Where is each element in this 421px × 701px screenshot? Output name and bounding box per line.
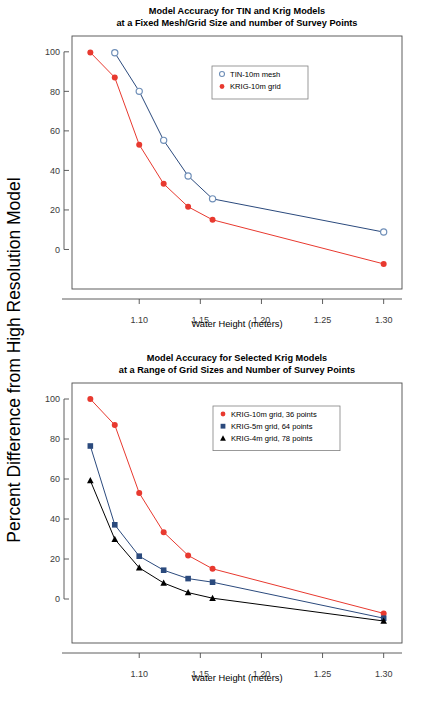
data-point-top-1-2	[136, 142, 142, 148]
y-tick-label-top-3: 60	[50, 126, 60, 136]
y-tick-label-bottom-5: 100	[45, 394, 60, 404]
y-axis-label-shared: Percent Difference from High Resolution …	[4, 177, 24, 542]
x-tick-label-top-3: 1.25	[314, 315, 332, 325]
data-point-bottom-1-2	[136, 553, 142, 559]
data-point-top-0-5	[381, 229, 387, 235]
legend-label-bottom-0: KRIG-10m grid, 36 points	[231, 410, 317, 419]
data-point-top-1-4	[185, 204, 191, 210]
legend-marker-bottom-1	[221, 424, 226, 429]
panel-top: Model Accuracy for TIN and Krig Modelsat…	[45, 6, 402, 329]
series-bottom-2	[87, 477, 387, 624]
data-point-top-0-2	[161, 137, 167, 143]
x-tick-label-top-4: 1.30	[375, 315, 393, 325]
y-tick-label-bottom-1: 20	[50, 554, 60, 564]
data-point-bottom-1-0	[88, 443, 94, 449]
data-point-bottom-2-0	[87, 477, 94, 483]
data-point-top-0-4	[209, 196, 215, 202]
x-tick-label-bottom-4: 1.30	[375, 669, 393, 679]
x-axis-label-bottom: Water Height (meters)	[191, 673, 282, 683]
series-line-bottom-1	[90, 446, 383, 618]
legend-label-bottom-1: KRIG-5m grid, 64 points	[231, 422, 313, 431]
data-point-bottom-0-3	[161, 529, 167, 535]
data-point-bottom-0-0	[87, 396, 93, 402]
y-axis-top: 020406080100	[45, 47, 69, 255]
data-point-top-0-1	[136, 88, 142, 94]
data-point-bottom-2-3	[160, 580, 167, 586]
data-point-bottom-1-4	[185, 576, 191, 582]
legend-top: TIN-10m meshKRIG-10m grid	[212, 66, 308, 99]
series-line-bottom-2	[90, 481, 383, 621]
chart-subtitle-bottom: at a Range of Grid Sizes and Number of S…	[119, 365, 355, 375]
data-point-bottom-2-1	[111, 536, 118, 542]
legend-label-top-1: KRIG-10m grid	[230, 82, 281, 91]
y-tick-label-bottom-0: 0	[55, 594, 60, 604]
data-point-top-0-0	[112, 50, 118, 56]
y-tick-label-bottom-3: 60	[50, 474, 60, 484]
data-point-bottom-1-1	[112, 522, 118, 528]
x-tick-label-bottom-0: 1.10	[130, 669, 148, 679]
data-point-bottom-1-3	[161, 567, 167, 573]
chart-title-bottom: Model Accuracy for Selected Krig Models	[147, 353, 327, 363]
data-point-top-1-6	[381, 261, 387, 267]
data-point-bottom-0-2	[136, 490, 142, 496]
panel-bottom: Model Accuracy for Selected Krig Modelsa…	[45, 353, 402, 683]
data-point-top-0-3	[185, 173, 191, 179]
x-axis-label-top: Water Height (meters)	[191, 319, 282, 329]
series-bottom-1	[88, 443, 387, 621]
data-point-bottom-1-5	[210, 579, 216, 585]
y-tick-label-top-1: 20	[50, 205, 60, 215]
legend-marker-top-1	[220, 84, 225, 89]
legend-label-top-0: TIN-10m mesh	[230, 70, 280, 79]
y-tick-label-top-5: 100	[45, 47, 60, 57]
y-tick-label-top-0: 0	[55, 245, 60, 255]
legend-label-bottom-2: KRIG-4m grid, 78 points	[231, 434, 313, 443]
data-point-bottom-0-4	[185, 552, 191, 558]
legend-bottom: KRIG-10m grid, 36 pointsKRIG-5m grid, 64…	[213, 406, 340, 451]
legend-marker-bottom-0	[221, 412, 226, 417]
y-axis-bottom: 020406080100	[45, 394, 69, 604]
chart-title-top: Model Accuracy for TIN and Krig Models	[149, 6, 325, 16]
data-point-top-1-0	[87, 49, 93, 55]
y-tick-label-top-2: 40	[50, 166, 60, 176]
data-point-top-1-5	[210, 217, 216, 223]
data-point-bottom-0-5	[210, 566, 216, 572]
y-tick-label-bottom-4: 80	[50, 434, 60, 444]
data-point-top-1-1	[112, 75, 118, 81]
data-point-bottom-0-1	[112, 422, 118, 428]
x-tick-label-bottom-3: 1.25	[314, 669, 332, 679]
legend-marker-top-0	[220, 72, 225, 77]
y-tick-label-top-4: 80	[50, 87, 60, 97]
y-tick-label-bottom-2: 40	[50, 514, 60, 524]
figure-canvas: Percent Difference from High Resolution …	[0, 0, 421, 701]
x-tick-label-top-0: 1.10	[130, 315, 148, 325]
data-point-top-1-3	[161, 181, 167, 187]
chart-subtitle-top: at a Fixed Mesh/Grid Size and number of …	[117, 18, 358, 28]
